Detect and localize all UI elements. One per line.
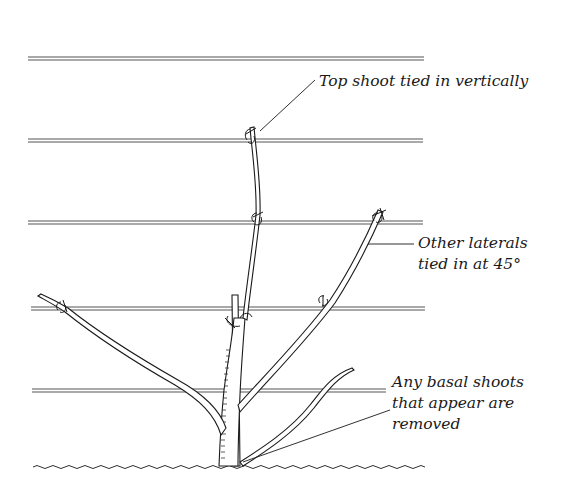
label-top-shoot-line-1: Top shoot tied in vertically [319,71,528,92]
wire-5 [32,389,386,392]
left-lateral [38,294,226,435]
wire-1 [28,57,424,60]
wire-4 [31,307,425,310]
label-other-laterals: Other laterals tied in at 45° [418,233,528,275]
label-basal-shoots-line-1: Any basal shoots [392,372,524,393]
wire-2 [28,139,423,142]
leader-line-top [260,80,315,131]
label-basal-shoots-line-2: that appear are [392,393,524,414]
leader-line-basal [243,410,390,462]
label-basal-shoots: Any basal shoots that appear are removed [392,372,524,435]
label-other-laterals-line-2: tied in at 45° [418,254,528,275]
tree [38,127,383,466]
leader-lines [243,80,414,462]
basal-shoot [240,368,354,466]
wire-3 [28,221,423,224]
label-top-shoot: Top shoot tied in vertically [319,71,528,92]
horizontal-wires [28,57,425,392]
right-lateral [238,210,383,412]
label-other-laterals-line-1: Other laterals [418,233,528,254]
label-basal-shoots-line-3: removed [392,414,524,435]
